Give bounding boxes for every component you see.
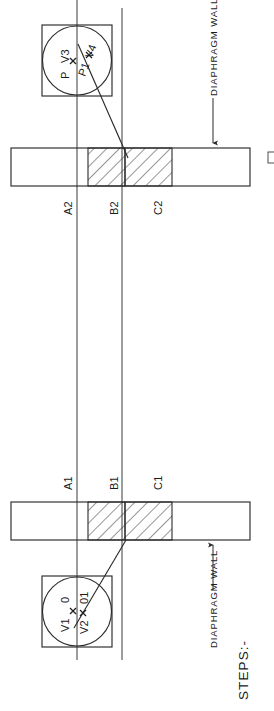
bottom-wall-label: DIAPHRAGM WALL: [208, 550, 219, 648]
station-label-B1: B1: [108, 476, 120, 490]
top-detail-group: [42, 25, 128, 158]
bottom-point-marker-o: [70, 608, 76, 614]
top-strut-line: [78, 44, 128, 158]
bottom-label-V1: V1: [59, 618, 71, 632]
bottom-label-O: 0: [59, 597, 71, 603]
top-label-V3: V3: [59, 49, 71, 63]
bottom-point-marker-o1: [80, 610, 86, 616]
bottom-wall-hatch-left: [88, 502, 125, 540]
bottom-label-O1: 01: [78, 591, 90, 604]
top-wall-bar: [11, 148, 250, 186]
engineering-drawing: P V3 P1 V4 A2 B2 C2 DIAPHRAGM WALL: [0, 0, 274, 711]
steps-title: STEPS:-: [236, 640, 251, 700]
station-label-B2: B2: [108, 201, 120, 215]
axis-lines: [77, 0, 122, 660]
top-wall-hatch-right: [125, 148, 172, 186]
station-label-C2: C2: [152, 201, 164, 215]
top-wall-label: DIAPHRAGM WALL: [208, 0, 219, 96]
bottom-wall-hatch-right: [125, 502, 172, 540]
edge-mark: [268, 152, 274, 163]
station-label-A2: A2: [62, 201, 74, 215]
top-label-P1: P1: [76, 61, 92, 78]
top-label-P: P: [59, 71, 71, 79]
station-label-A1: A1: [62, 476, 74, 490]
top-wall-hatch-left: [88, 148, 125, 186]
bottom-label-V2: V2: [78, 620, 90, 634]
bottom-wall-bar: [11, 502, 250, 540]
top-label-V4: V4: [83, 43, 99, 60]
drawing-canvas: P V3 P1 V4 A2 B2 C2 DIAPHRAGM WALL: [0, 0, 274, 711]
station-label-C1: C1: [152, 476, 164, 490]
